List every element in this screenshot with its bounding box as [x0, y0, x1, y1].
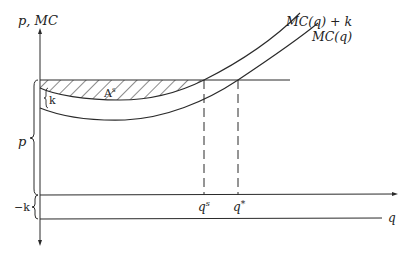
shifted-axis-line [40, 218, 382, 219]
price-label: p [18, 134, 27, 149]
upper-curve-label: MC(q) + k [285, 14, 352, 29]
mc-curve-label: MC(q) [311, 29, 352, 44]
q-star-label: q* [233, 199, 246, 214]
q-s-label: qs [198, 199, 210, 214]
diagram-canvas: p, MC MC(q) + k MC(q) As k p −k qs q* q [0, 0, 412, 259]
y-axis-label: p, MC [18, 13, 58, 28]
x-axis [40, 192, 398, 196]
neg-k-brace [32, 195, 38, 219]
x-axis-label: q [388, 211, 396, 225]
marginal-cost-curve [40, 23, 318, 120]
neg-k-label: −k [14, 201, 30, 214]
price-brace [30, 80, 38, 195]
y-axis [38, 28, 42, 246]
k-label: k [49, 94, 56, 107]
